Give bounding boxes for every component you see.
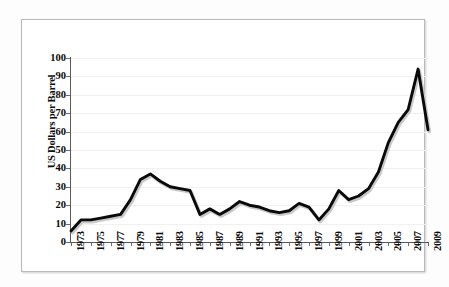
y-axis-tick-label: 90 [36, 71, 66, 81]
gridline [71, 224, 428, 225]
figure-root: US Dollars per Barrel 010203040506070809… [0, 0, 449, 287]
gridline [71, 113, 428, 114]
x-axis-tick-mark [250, 243, 251, 246]
x-axis-tick-mark [269, 243, 270, 246]
y-axis-line [70, 57, 71, 243]
x-axis-tick-mark [408, 243, 409, 246]
x-axis-tick-mark [170, 243, 171, 246]
y-axis-tick-label: 50 [36, 145, 66, 155]
gridline [71, 205, 428, 206]
x-axis-tick-label: 2007 [412, 231, 423, 251]
x-axis-tick-mark [190, 243, 191, 246]
y-axis-tick-mark [66, 76, 70, 77]
x-axis-tick-label: 2003 [373, 231, 384, 251]
x-axis-tick-label: 2009 [432, 231, 443, 251]
gridline [71, 95, 428, 96]
x-axis-tick-mark [91, 243, 92, 246]
x-axis-tick-label: 1981 [154, 231, 165, 251]
x-axis-tick-mark [289, 243, 290, 246]
x-axis-tick-label: 1985 [194, 231, 205, 251]
x-axis-tick-mark [131, 243, 132, 246]
x-axis-tick-mark [210, 243, 211, 246]
x-axis-tick-mark [230, 243, 231, 246]
plot-area [71, 58, 428, 242]
x-axis-tick-label: 1983 [174, 231, 185, 251]
x-axis-tick-label: 1979 [135, 231, 146, 251]
x-axis-tick-mark [428, 243, 429, 246]
x-axis-tick-label: 1977 [115, 231, 126, 251]
y-axis-tick-label: 60 [36, 127, 66, 137]
x-axis-tick-label: 1997 [313, 231, 324, 251]
y-axis-tick-mark [66, 205, 70, 206]
y-axis-tick-label: 70 [36, 108, 66, 118]
x-axis-tick-mark [111, 243, 112, 246]
y-axis-tick-mark [66, 132, 70, 133]
y-axis-tick-mark [66, 113, 70, 114]
gridline [71, 187, 428, 188]
chart-frame: US Dollars per Barrel 010203040506070809… [21, 19, 425, 272]
x-axis-tick-mark [150, 243, 151, 246]
x-axis-tick-label: 1987 [214, 231, 225, 251]
y-axis-tick-mark [66, 242, 70, 243]
y-axis-tick-label: 80 [36, 90, 66, 100]
y-axis-tick-mark [66, 58, 70, 59]
x-axis-tick-mark [309, 243, 310, 246]
x-axis-tick-label: 1973 [75, 231, 86, 251]
y-axis-tick-label: 0 [36, 237, 66, 247]
gridline [71, 58, 428, 59]
y-axis-tick-labels: 0102030405060708090100 [32, 20, 66, 287]
x-axis-tick-mark [388, 243, 389, 246]
y-axis-tick-mark [66, 168, 70, 169]
y-axis-tick-mark [66, 187, 70, 188]
y-axis-tick-label: 20 [36, 200, 66, 210]
y-axis-tick-mark [66, 150, 70, 151]
y-axis-tick-label: 40 [36, 163, 66, 173]
x-axis-tick-label: 1999 [333, 231, 344, 251]
y-axis-tick-label: 100 [36, 53, 66, 63]
x-axis-tick-label: 2001 [353, 231, 364, 251]
y-axis-tick-label: 10 [36, 219, 66, 229]
x-axis-tick-mark [329, 243, 330, 246]
gridline [71, 150, 428, 151]
x-axis-tick-label: 1975 [95, 231, 106, 251]
x-axis-tick-label: 1991 [254, 231, 265, 251]
x-axis-tick-mark [369, 243, 370, 246]
gridline [71, 76, 428, 77]
x-axis-tick-label: 1995 [293, 231, 304, 251]
x-axis-tick-label: 2005 [392, 231, 403, 251]
x-axis-tick-mark [71, 243, 72, 246]
y-axis-tick-label: 30 [36, 182, 66, 192]
gridline [71, 168, 428, 169]
y-axis-tick-mark [66, 95, 70, 96]
gridline [71, 132, 428, 133]
x-axis-tick-mark [349, 243, 350, 246]
x-axis-tick-label: 1993 [273, 231, 284, 251]
y-axis-tick-mark [66, 224, 70, 225]
x-axis-tick-label: 1989 [234, 231, 245, 251]
